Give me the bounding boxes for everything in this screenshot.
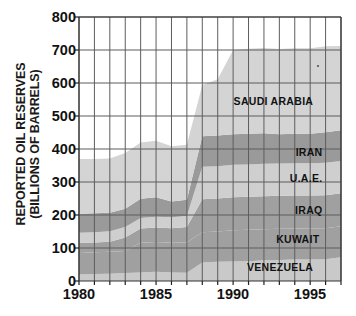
series-label-iraq: IRAQ	[203, 204, 323, 216]
y-tick-600: 600	[34, 76, 76, 90]
x-tick-1990: 1990	[203, 286, 263, 302]
oil-reserves-chart: REPORTED OIL RESERVES (BILLIONS OF BARRE…	[0, 0, 356, 316]
x-tick-1995: 1995	[280, 286, 340, 302]
series-label-iran: IRAN	[203, 146, 323, 158]
y-tick-700: 700	[34, 43, 76, 57]
y-tick-500: 500	[34, 109, 76, 123]
y-tick-400: 400	[34, 142, 76, 156]
y-tick-800: 800	[34, 10, 76, 24]
y-tick-200: 200	[34, 208, 76, 222]
series-label-kuwait: KUWAIT	[199, 233, 319, 245]
series-label-venezuela: VENEZUELA	[193, 261, 313, 273]
x-tick-1985: 1985	[126, 286, 186, 302]
y-axis-tick-labels: 800 700 600 500 400 300 200 100 0	[30, 0, 76, 316]
series-label-u-a-e: U.A.E.	[203, 172, 323, 184]
y-tick-100: 100	[34, 241, 76, 255]
y-tick-300: 300	[34, 175, 76, 189]
series-label-saudi-arabia: SAUDI ARABIA	[193, 95, 313, 107]
x-tick-1980: 1980	[49, 286, 109, 302]
